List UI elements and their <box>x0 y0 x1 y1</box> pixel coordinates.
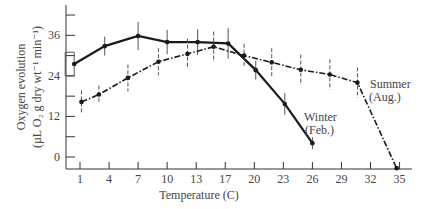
x-tick-label: 29 <box>335 172 347 186</box>
x-tick-label: 32 <box>365 172 377 186</box>
data-point <box>195 40 200 45</box>
y-tick-label: 12 <box>48 109 60 123</box>
data-point <box>355 80 360 85</box>
series-line <box>82 47 397 168</box>
x-tick-label: 35 <box>394 172 406 186</box>
x-tick-label: 20 <box>248 172 260 186</box>
winter-label-line1: Winter <box>304 110 337 124</box>
x-tick-label: 10 <box>161 172 173 186</box>
x-tick-label: 4 <box>106 172 112 186</box>
winter-label: Winter (Feb.) <box>304 110 337 137</box>
data-point <box>97 92 102 97</box>
data-point <box>156 59 161 64</box>
x-tick-label: 26 <box>306 172 318 186</box>
data-point <box>72 62 77 67</box>
y-tick-label: 24 <box>48 69 60 83</box>
data-point <box>211 45 216 50</box>
summer-label: Summer (Aug.) <box>369 77 411 104</box>
y-tick-label: 0 <box>54 150 60 164</box>
oxygen-evolution-chart: Oxygen evolution (µL O₂ g dry wt⁻¹ min⁻¹… <box>0 0 436 209</box>
x-axis-title: Temperature (C) <box>159 188 238 202</box>
series-layer <box>65 22 399 171</box>
x-tick-label: 23 <box>277 172 289 186</box>
x-tick-label: 17 <box>219 172 231 186</box>
x-tick-label: 7 <box>135 172 141 186</box>
winter-label-line2: (Feb.) <box>305 123 334 137</box>
data-point <box>185 52 190 57</box>
y-axis-title-line1: Oxygen evolution <box>14 44 28 130</box>
data-point <box>283 102 288 107</box>
summer-label-line1: Summer <box>370 77 411 91</box>
data-point <box>79 100 84 105</box>
data-point <box>310 141 315 146</box>
y-axis-title-line2: (µL O₂ g dry wt⁻¹ min⁻¹) <box>30 26 44 148</box>
x-tick-label: 13 <box>190 172 202 186</box>
x-tick-label: 1 <box>77 172 83 186</box>
data-point <box>126 76 131 81</box>
data-point <box>136 34 141 39</box>
winter-series <box>65 22 315 149</box>
data-point <box>253 68 258 73</box>
axes: 0122436147101317202326293235 <box>48 5 412 186</box>
data-point <box>102 44 107 49</box>
y-tick-label: 36 <box>48 28 60 42</box>
summer-label-line2: (Aug.) <box>369 90 401 104</box>
data-point <box>226 41 231 46</box>
data-point <box>328 72 333 77</box>
data-point <box>165 40 170 45</box>
data-point <box>298 67 303 72</box>
data-point <box>269 60 274 65</box>
y-axis-title: Oxygen evolution (µL O₂ g dry wt⁻¹ min⁻¹… <box>14 26 44 148</box>
data-point <box>242 53 247 58</box>
data-point <box>394 166 399 171</box>
